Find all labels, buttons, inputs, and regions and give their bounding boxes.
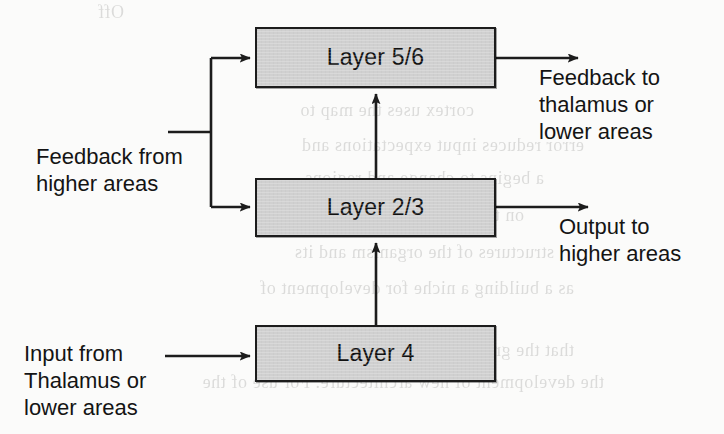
bleedthrough-line: cortex uses the map to [300, 100, 474, 121]
block-layer-5-6-label: Layer 5/6 [327, 44, 425, 71]
bleedthrough-line: Off [98, 2, 124, 23]
label-feedback-from-higher-areas: Feedback from higher areas [36, 143, 183, 197]
diagram-canvas: Offas detailcortex uses the map toerror … [0, 0, 724, 434]
bleedthrough-line: as a building a niche for development of [260, 278, 574, 299]
block-layer-4-label: Layer 4 [336, 340, 414, 367]
label-output-to-higher-areas: Output to higher areas [559, 213, 681, 267]
block-layer-5-6[interactable]: Layer 5/6 [255, 27, 496, 88]
block-layer-2-3[interactable]: Layer 2/3 [255, 178, 496, 237]
label-input-from-thalamus: Input from Thalamus or lower areas [24, 340, 146, 421]
bleedthrough-line: structures of the organism and its [294, 242, 554, 263]
block-layer-4[interactable]: Layer 4 [255, 325, 496, 382]
block-layer-2-3-label: Layer 2/3 [327, 194, 425, 221]
label-feedback-to-thalamus: Feedback to thalamus or lower areas [539, 64, 660, 145]
